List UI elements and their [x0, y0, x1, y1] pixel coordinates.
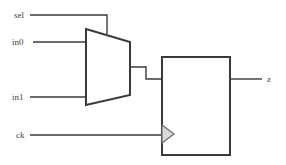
label-in0: in0 [12, 37, 24, 47]
label-in1: in1 [12, 92, 24, 102]
label-sel: sel [14, 10, 24, 20]
label-ck: ck [16, 130, 25, 140]
circuit-diagram: sel in0 in1 ck z [0, 0, 286, 165]
flip-flop [162, 57, 230, 155]
wire-mux-to-ff [130, 67, 162, 79]
label-z: z [267, 74, 271, 84]
multiplexer [86, 29, 130, 105]
